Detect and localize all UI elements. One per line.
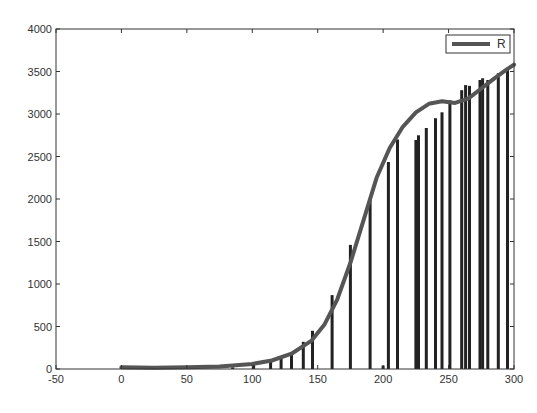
bar [441,112,444,369]
y-tick-label: 3000 [28,108,52,120]
bar [464,85,467,369]
x-tick-label: 100 [243,373,261,385]
bar [506,68,509,369]
bar [486,80,489,369]
y-tick-label: 2500 [28,151,52,163]
bar [481,78,484,369]
bar [434,118,437,369]
bar [425,128,428,369]
y-tick-label: 1500 [28,236,52,248]
plot-area [56,29,514,369]
y-tick-label: 500 [34,321,52,333]
x-tick-label: 0 [118,373,124,385]
bar [479,80,482,369]
bar [417,135,420,369]
chart: -50050100150200250300 050010001500200025… [0,0,537,413]
legend-label-r: R [497,37,506,51]
x-tick-label: 50 [181,373,193,385]
x-tick-label: 250 [439,373,457,385]
bar [448,100,451,369]
x-tick-label: 200 [374,373,392,385]
y-tick-label: 2000 [28,193,52,205]
y-tick-label: 0 [46,363,52,375]
y-tick-label: 4000 [28,23,52,35]
bar [460,90,463,369]
bar [497,73,500,369]
bar [396,140,399,370]
bar [414,140,417,369]
bar [468,86,471,369]
bar [387,162,390,369]
x-tick-label: 300 [505,373,523,385]
x-tick-label: 150 [309,373,327,385]
y-tick-label: 1000 [28,278,52,290]
y-tick-label: 3500 [28,66,52,78]
bar [369,200,372,369]
legend: R [446,35,510,53]
